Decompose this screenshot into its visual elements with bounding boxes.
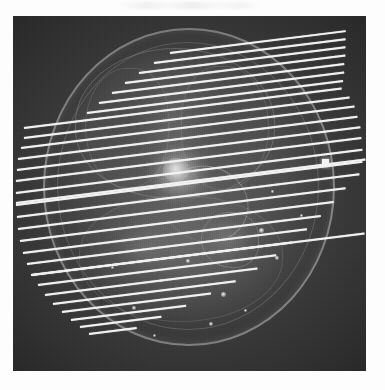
- scanner-artifact-band: [120, 2, 260, 9]
- image-noise: [13, 16, 366, 371]
- fiducial-marker-icon: [322, 159, 329, 167]
- axial-scan-image: [13, 16, 366, 371]
- scan-viewport[interactable]: [13, 16, 366, 371]
- screenshot-root: [0, 0, 385, 390]
